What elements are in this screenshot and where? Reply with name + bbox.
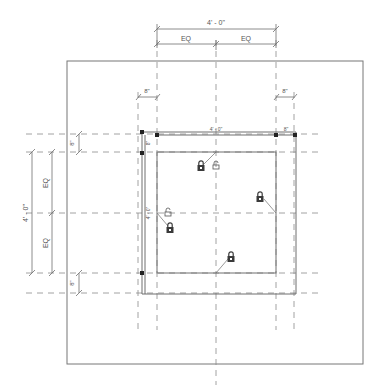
- drawing-canvas: 4' - 0" EQ EQ 8" 8" 4' - 0" 8" 4' - 0" E…: [0, 0, 383, 385]
- dimension-inner-left-small-label: 8": [145, 141, 151, 146]
- outer-boundary: [67, 61, 363, 364]
- dimension-top-eq[interactable]: [154, 40, 279, 50]
- dimension-left-overall[interactable]: [29, 149, 35, 276]
- dimension-top-offsets[interactable]: [136, 94, 297, 100]
- dimension-left-offset-bottom-label: 8": [69, 280, 75, 285]
- dimension-left-offset-top-label: 8": [69, 140, 75, 145]
- dimension-inner-top-right-label: 8": [284, 126, 289, 132]
- lock-icon[interactable]: [257, 192, 264, 202]
- dimension-left-eq-bottom-label: EQ: [42, 237, 50, 248]
- lock-icon[interactable]: [198, 161, 205, 171]
- dimension-inner-top-label: 4' - 0": [210, 126, 223, 132]
- dimension-left-overall-label: 4' - 0": [22, 204, 29, 222]
- dimension-inner-left-label: 4' - 0": [145, 206, 151, 219]
- dimension-top-overall-label: 4' - 0": [207, 19, 225, 26]
- dimension-left-eq[interactable]: [49, 149, 55, 276]
- dimension-top-offset-left-label: 8": [144, 88, 149, 94]
- dimension-left-offsets[interactable]: [76, 131, 82, 296]
- lock-icon[interactable]: [228, 252, 235, 262]
- vertical-reference-lines: [138, 40, 294, 385]
- dimension-top-offset-right-label: 8": [282, 88, 287, 94]
- unlock-icon[interactable]: [165, 208, 171, 216]
- constraint-leaders: [157, 152, 276, 273]
- dimension-top-eq-left-label: EQ: [181, 35, 192, 43]
- dimension-top-eq-right-label: EQ: [241, 35, 252, 43]
- dimension-left-eq-top-label: EQ: [42, 177, 50, 188]
- lock-icon[interactable]: [167, 223, 174, 233]
- dimension-top-overall[interactable]: [154, 24, 279, 48]
